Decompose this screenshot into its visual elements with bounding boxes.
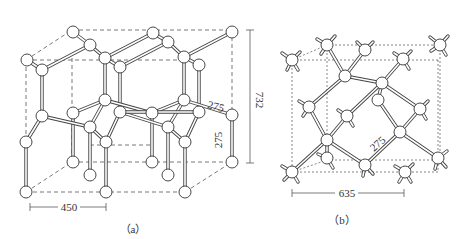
panel-a-bond-label-vertical: 275 — [212, 131, 224, 148]
panel-b-cubic-structure: 275 635 （b） — [282, 36, 448, 226]
panel-b-caption: （b） — [328, 214, 356, 226]
panel-b-width-dimension: 635 — [292, 187, 404, 199]
panel-a-height-label: 732 — [254, 92, 266, 109]
panel-a-width-label: 450 — [61, 201, 78, 213]
panel-a-height-dimension: 732 — [246, 30, 266, 163]
panel-b-bond-label: 275 — [367, 133, 388, 153]
panel-b-width-label: 635 — [339, 187, 356, 199]
panel-a-caption: （a） — [120, 223, 147, 235]
panel-a-width-dimension: 450 — [30, 201, 106, 213]
panel-a-bond-label-horizontal: 275 — [207, 98, 226, 114]
panel-a-hexagonal-structure: 732 275 275 450 （a） — [20, 26, 266, 235]
crystal-structure-figure: 732 275 275 450 （a） — [0, 0, 460, 239]
